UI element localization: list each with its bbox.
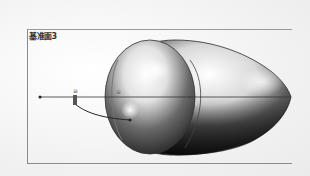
sketch-point[interactable] [39,96,42,99]
relation-marker[interactable] [73,95,77,105]
model-scene[interactable]: ≡ ≡ [0,0,310,176]
dimension-marker-icon: ≡ [73,87,78,94]
dimension-marker-icon: ≡ [116,88,121,95]
sketch-endpoint[interactable] [129,119,132,122]
sketch-point[interactable] [189,96,191,98]
graphics-viewport[interactable]: 基准面3 [0,0,310,176]
